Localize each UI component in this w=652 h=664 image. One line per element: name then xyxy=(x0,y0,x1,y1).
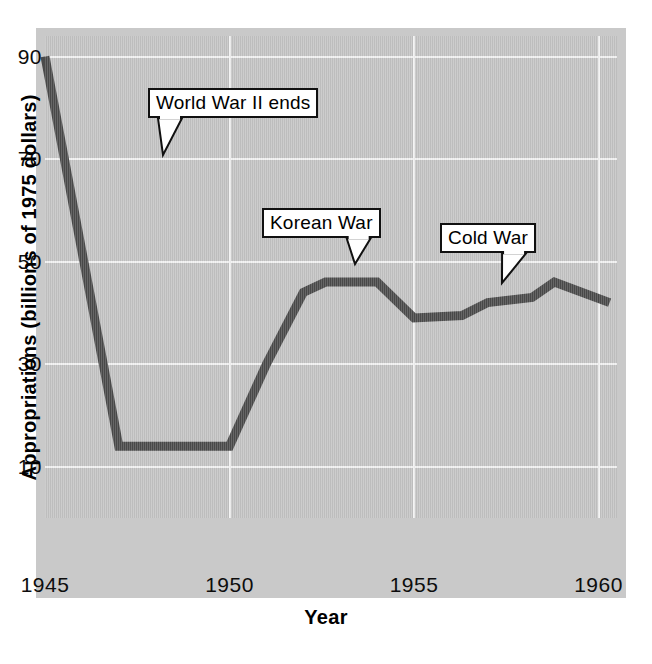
annotation-pointers xyxy=(0,0,652,664)
annotation-pointer-cap-0 xyxy=(160,115,180,119)
annotation-pointer-cap-1 xyxy=(349,235,369,239)
annotation-pointer-1 xyxy=(347,238,371,264)
annotation-pointer-cap-2 xyxy=(504,250,524,254)
annotation-pointer-2 xyxy=(502,253,526,283)
annotation-pointer-0 xyxy=(158,118,182,155)
chart-figure: 1030507090 1945195019551960 Year Appropr… xyxy=(0,0,652,664)
